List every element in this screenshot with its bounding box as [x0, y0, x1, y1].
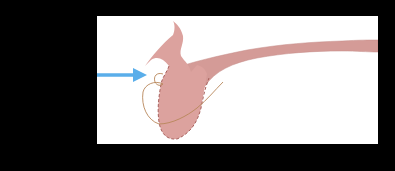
diagram-svg: [97, 16, 378, 144]
diagram-panel: [97, 16, 378, 144]
inflow-arrow-icon: [97, 68, 147, 82]
